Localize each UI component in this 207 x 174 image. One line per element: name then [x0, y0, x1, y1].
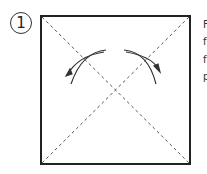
side-text-line: p	[203, 72, 207, 82]
origami-diagram	[0, 0, 207, 174]
side-text-line: f	[203, 37, 207, 47]
side-text-line: F	[203, 20, 207, 30]
left-fold-arrow-icon	[66, 50, 106, 84]
right-fold-arrow-icon	[124, 50, 160, 84]
side-text-line: f	[203, 55, 207, 65]
